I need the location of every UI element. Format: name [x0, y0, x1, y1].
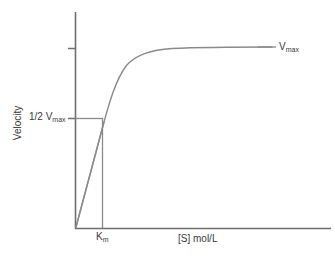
michaelis-menten-curve	[76, 47, 272, 227]
km-label-base: K	[96, 231, 103, 242]
km-label: Km	[96, 232, 109, 242]
km-label-subscript: m	[103, 236, 109, 243]
vmax-label-subscript: max	[286, 46, 299, 53]
vmax-label: Vmax	[279, 42, 299, 52]
half-vmax-label: 1/2 Vmax	[29, 112, 66, 122]
half-vmax-label-base: 1/2 V	[29, 111, 52, 122]
half-vmax-label-subscript: max	[52, 116, 65, 123]
michaelis-menten-chart: Velocity 1/2 Vmax Vmax Km [S] mol/L	[0, 0, 335, 258]
vmax-label-base: V	[279, 41, 286, 52]
plot-area	[0, 0, 335, 258]
x-axis-label: [S] mol/L	[178, 234, 217, 244]
y-axis-label: Velocity	[13, 93, 23, 153]
